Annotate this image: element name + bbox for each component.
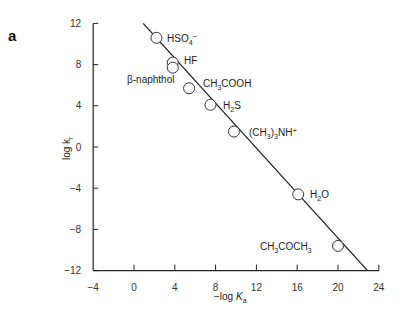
point-labels: HSO4− HF β-naphthol CH3COOH H2S (CH3)3NH… [127, 32, 329, 254]
y-tick-label: −8 [70, 224, 82, 235]
data-point [184, 83, 195, 94]
y-tick-label: −4 [70, 183, 82, 194]
y-tick-label: 0 [76, 142, 82, 153]
y-tick-label: 4 [76, 100, 82, 111]
label-ch3cooh: CH3COOH [203, 78, 251, 91]
data-point [205, 99, 216, 110]
y-tick-label: 12 [70, 18, 82, 29]
x-tick-label: 20 [332, 282, 344, 293]
label-naphthol: β-naphthol [127, 74, 174, 85]
x-tick-label: −4 [87, 282, 99, 293]
x-tick-label: 4 [172, 282, 178, 293]
data-point [333, 240, 344, 251]
x-axis-label: −log Ka [214, 291, 247, 304]
label-h2s: H2S [223, 100, 241, 113]
y-tick-label: −12 [64, 265, 81, 276]
y-tick-label: 8 [76, 59, 82, 70]
data-point [293, 189, 304, 200]
data-point [167, 62, 178, 73]
chart: a 12840−4−8−12−404812162024 HSO4− HF β-n… [0, 0, 403, 325]
data-point [228, 126, 239, 137]
label-trimethylammonium: (CH3)3NH+ [249, 126, 297, 140]
x-tick-label: 24 [373, 282, 385, 293]
label-acetone: CH3COCH3 [260, 241, 312, 254]
panel-label: a [8, 27, 17, 44]
x-tick-label: 0 [131, 282, 137, 293]
data-points [151, 32, 344, 251]
data-point [151, 32, 162, 43]
label-h2o: H2O [310, 189, 329, 202]
label-hso4: HSO4− [167, 32, 198, 46]
y-axis-label: log kr [61, 136, 74, 160]
x-tick-label: 16 [292, 282, 304, 293]
label-hf: HF [184, 55, 197, 66]
x-tick-label: 12 [251, 282, 263, 293]
